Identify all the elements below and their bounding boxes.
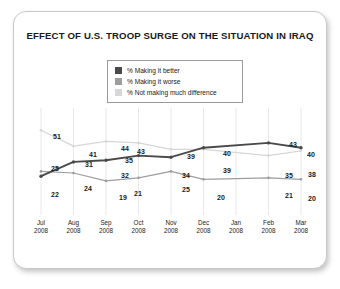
x-axis-tick: Oct2008 [122,219,156,236]
x-axis-tick-year: 2008 [131,227,145,234]
legend-item-better: % Making it better [115,65,236,76]
data-point-marker [300,178,303,181]
x-axis-tick-month: Aug [68,219,79,226]
data-point-marker [137,177,140,180]
data-value-label: 32 [121,172,129,179]
x-axis-tick: Dec2008 [187,219,221,236]
legend-item-worse: % Making it worse [115,76,236,87]
data-value-label: 21 [285,192,293,199]
data-point-marker [267,154,270,157]
data-point-marker [40,129,43,132]
data-value-label: 39 [223,167,231,174]
data-point-marker [104,159,107,162]
x-axis-tick-year: 2008 [164,227,178,234]
x-axis-tick-month: Sep [100,219,111,226]
data-value-label: 25 [51,165,59,172]
legend-swatch-better [115,67,122,74]
data-point-marker [39,175,42,178]
x-axis-tick: Feb2008 [252,219,286,236]
data-point-marker [72,172,75,175]
data-value-label: 41 [89,151,97,158]
x-axis-labels: Jul2008Aug2008Sep2008Oct2008Nov2008Dec20… [27,217,315,247]
x-axis-tick: Mar2008 [284,219,318,236]
x-axis-tick-year: 2008 [294,227,308,234]
data-value-label: 44 [121,145,129,152]
data-value-label: 24 [84,185,92,192]
x-axis-tick: Nov2008 [154,219,188,236]
data-point-marker [267,141,270,144]
x-axis-tick-month: Jan [231,219,241,226]
data-value-label: 20 [308,195,316,202]
data-value-label: 39 [187,153,195,160]
data-value-label: 19 [119,194,127,201]
x-axis-tick-month: Nov [165,219,176,226]
x-axis-tick-month: Feb [263,219,274,226]
data-point-marker [105,140,108,143]
x-axis-tick-year: 2008 [261,227,275,234]
data-point-marker [202,146,205,149]
data-value-label: 43 [137,148,145,155]
x-axis-tick-year: 2008 [229,227,243,234]
legend-label-better: % Making it better [127,67,180,74]
x-axis-tick-month: Dec [198,219,209,226]
x-axis-tick: Jul2008 [24,219,58,236]
data-value-label: 40 [307,151,315,158]
legend-item-no-difference: % Not making much difference [115,87,236,98]
chart-card: EFFECT OF U.S. TROOP SURGE ON THE SITUAT… [13,11,327,269]
data-point-marker [267,177,270,180]
data-value-label: 25 [182,186,190,193]
legend-swatch-no-difference [115,89,122,96]
data-point-marker [300,150,303,153]
data-point-marker [72,160,75,163]
data-point-marker [72,145,75,148]
data-value-label: 51 [53,133,61,140]
chart-legend: % Making it better % Making it worse % N… [107,60,243,103]
x-axis-tick-year: 2008 [34,227,48,234]
data-value-label: 35 [285,172,293,179]
data-value-label: 22 [51,191,59,198]
x-axis-tick-month: Mar [296,219,307,226]
data-value-label: 34 [182,172,190,179]
legend-swatch-worse [115,78,122,85]
data-point-marker [170,170,173,173]
data-value-label: 38 [308,171,316,178]
data-value-label: 31 [85,161,93,168]
page-title: EFFECT OF U.S. TROOP SURGE ON THE SITUAT… [14,30,326,41]
data-value-label: 40 [223,150,231,157]
line-chart-svg [27,108,315,215]
x-axis-tick: Jan2008 [219,219,253,236]
x-axis-tick-year: 2008 [66,227,80,234]
x-axis-tick: Aug2008 [57,219,91,236]
data-value-label: 21 [134,190,142,197]
data-point-marker [137,142,140,145]
legend-label-no-difference: % Not making much difference [127,89,217,96]
data-point-marker [40,170,43,173]
data-point-marker [299,146,302,149]
data-point-marker [170,148,173,151]
data-value-label: 20 [217,194,225,201]
data-value-label: 43 [289,141,297,148]
legend-label-worse: % Making it worse [127,78,181,85]
x-axis-tick-month: Jul [37,219,45,226]
data-value-label: 35 [125,157,133,164]
x-axis-tick: Sep2008 [89,219,123,236]
x-axis-tick-year: 2008 [196,227,210,234]
x-axis-tick-year: 2008 [99,227,113,234]
data-point-marker [169,156,172,159]
chart-plot-area: 5141444339403943403538252231243235192134… [27,108,315,215]
x-axis-tick-month: Oct [134,219,144,226]
data-point-marker [202,178,205,181]
data-point-marker [105,180,108,183]
